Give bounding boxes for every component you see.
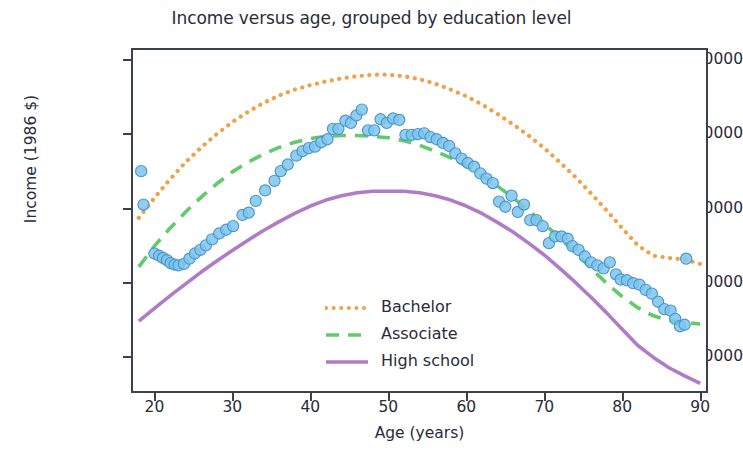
- x-tick-mark: [388, 393, 390, 401]
- scatter-point: [138, 199, 149, 210]
- x-tick-mark: [700, 393, 702, 401]
- scatter-point: [282, 159, 293, 170]
- scatter-point: [369, 125, 380, 136]
- scatter-point: [604, 257, 615, 268]
- scatter-point: [136, 166, 147, 177]
- page-title: Income versus age, grouped by education …: [0, 8, 743, 28]
- scatter-point: [322, 134, 333, 145]
- legend-item-associate[interactable]: Associate: [325, 320, 535, 347]
- scatter-point: [260, 185, 271, 196]
- scatter-point: [394, 114, 405, 125]
- legend-item-bachelor[interactable]: Bachelor: [325, 293, 535, 320]
- legend-swatch-icon: [325, 300, 369, 314]
- y-axis-label: Income (1986 $): [22, 64, 40, 254]
- x-tick-mark: [154, 393, 156, 401]
- scatter-point: [356, 104, 367, 115]
- y-tick-mark: [123, 208, 131, 210]
- y-tick-mark: [123, 356, 131, 358]
- y-tick-mark: [123, 282, 131, 284]
- scatter-point: [537, 220, 548, 231]
- scatter-point: [681, 253, 692, 264]
- scatter-point: [269, 175, 280, 186]
- legend-label: Associate: [381, 324, 458, 343]
- chart-legend: BachelorAssociateHigh school: [325, 293, 535, 374]
- legend-item-high-school[interactable]: High school: [325, 347, 535, 374]
- x-tick-mark: [466, 393, 468, 401]
- legend-label: High school: [381, 351, 474, 370]
- scatter-point: [228, 220, 239, 231]
- x-tick-mark: [544, 393, 546, 401]
- x-axis-label: Age (years): [131, 424, 708, 442]
- y-tick-mark: [123, 59, 131, 61]
- legend-label: Bachelor: [381, 297, 451, 316]
- legend-swatch-icon: [325, 327, 369, 341]
- scatter-point: [250, 195, 261, 206]
- scatter-point: [506, 190, 517, 201]
- y-tick-mark: [123, 133, 131, 135]
- scatter-point: [679, 319, 690, 330]
- x-tick-mark: [310, 393, 312, 401]
- legend-swatch-icon: [325, 354, 369, 368]
- x-tick-mark: [622, 393, 624, 401]
- chart-figure: Income versus age, grouped by education …: [0, 0, 743, 467]
- scatter-point: [500, 201, 511, 212]
- x-tick-mark: [232, 393, 234, 401]
- scatter-point: [487, 177, 498, 188]
- scatter-point: [518, 199, 529, 210]
- scatter-point: [243, 207, 254, 218]
